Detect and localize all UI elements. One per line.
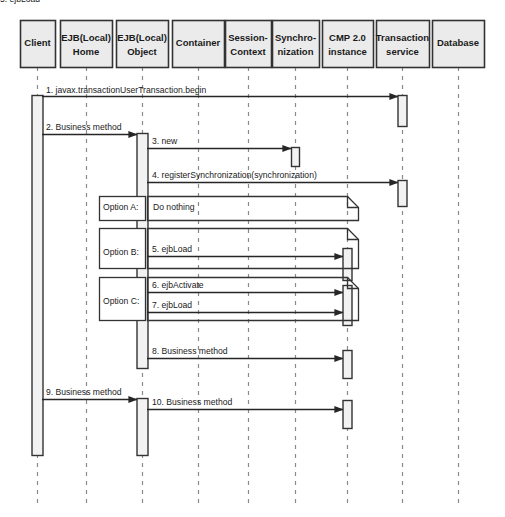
lifeline-head-label-line2: service [386, 46, 419, 57]
message-label: 10. Business method [152, 397, 232, 407]
activation-bar-sync[interactable] [292, 148, 300, 167]
message-label: 4. registerSynchronization(synchronizati… [152, 170, 317, 180]
activation-bar-ejb_object[interactable] [137, 399, 148, 456]
lifeline-head-label: Transaction [376, 32, 430, 43]
lifeline-head-label: Client [24, 37, 51, 48]
message-label: 5. ejbLoad [152, 244, 192, 254]
lifeline-head-box [226, 21, 272, 68]
activation-bar-cmp[interactable] [343, 351, 352, 379]
option-b-note-text: 5. ejbLoad [0, 0, 40, 4]
lifeline-head-box [61, 21, 113, 68]
message-m2[interactable]: 2. Business method [42, 122, 137, 135]
option-a[interactable]: Option A:Do nothing [100, 197, 359, 221]
lifeline-head-label: Database [437, 37, 479, 48]
message-label: 1. javax.transactionUserTransaction.begi… [46, 85, 206, 95]
activation-bar-client[interactable] [32, 96, 43, 456]
lifeline-head-label-line2: instance [328, 46, 367, 57]
lifeline-head-box [323, 21, 374, 68]
message-label: 6. ejbActivate [152, 280, 204, 290]
lifeline-head-label-line2: Context [230, 46, 266, 57]
message-label: 9. Business method [46, 387, 122, 397]
option-a-tag-label: Option A: [103, 202, 138, 212]
lifeline-head-database[interactable]: Database [433, 21, 485, 68]
message-m8[interactable]: 8. Business method [147, 346, 343, 359]
lifeline-head-label: Synchro- [275, 32, 316, 43]
lifeline-head-label: EJB(Local) [117, 32, 167, 43]
lifeline-head-box [377, 21, 430, 68]
activation-bar-cmp[interactable] [343, 286, 352, 326]
activation-bar-cmp[interactable] [343, 249, 352, 281]
option-c[interactable]: Option C: [100, 278, 359, 321]
lifeline-head-label-line2: Home [73, 46, 99, 57]
message-m9[interactable]: 9. Business method [42, 387, 137, 400]
message-m10[interactable]: 10. Business method [147, 397, 343, 410]
lifeline-head-label: Session- [228, 32, 268, 43]
sequence-diagram-canvas: Option A:Do nothingOption B:5. ejbLoadOp… [0, 0, 505, 517]
message-label: 3. new [152, 136, 178, 146]
lifeline-head-label: EJB(Local) [61, 32, 111, 43]
sequence-diagram-svg: Option A:Do nothingOption B:5. ejbLoadOp… [0, 0, 505, 517]
lifeline-head-box [117, 21, 169, 68]
lifeline-head-client[interactable]: Client [21, 21, 56, 68]
message-label: 8. Business method [152, 346, 228, 356]
message-m5[interactable]: 5. ejbLoad [147, 244, 343, 257]
activation-bar-tx_service[interactable] [398, 181, 407, 207]
message-m1[interactable]: 1. javax.transactionUserTransaction.begi… [42, 85, 398, 97]
message-label: 2. Business method [46, 122, 122, 132]
message-label: 7. ejbLoad [152, 300, 192, 310]
message-m4[interactable]: 4. registerSynchronization(synchronizati… [147, 170, 398, 183]
lifeline-heads-layer: ClientEJB(Local)HomeEJB(Local)ObjectCont… [21, 21, 485, 68]
lifeline-head-ejb_object[interactable]: EJB(Local)Object [117, 21, 169, 68]
lifeline-head-tx_service[interactable]: Transactionservice [376, 21, 430, 68]
lifeline-head-label-line2: Object [127, 46, 157, 57]
message-m6[interactable]: 6. ejbActivate [147, 280, 343, 293]
message-m3[interactable]: 3. new [147, 136, 291, 149]
option-c-tag-label: Option C: [103, 296, 139, 306]
lifeline-head-ejb_home[interactable]: EJB(Local)Home [61, 21, 113, 68]
lifeline-head-cmp[interactable]: CMP 2.0instance [323, 21, 374, 68]
message-m7[interactable]: 7. ejbLoad [147, 300, 343, 313]
activation-bar-cmp[interactable] [343, 401, 352, 429]
lifeline-head-sync[interactable]: Synchro-nization [273, 21, 320, 68]
lifeline-head-box [273, 21, 320, 68]
lifeline-head-label: CMP 2.0 [329, 32, 366, 43]
lifeline-head-container[interactable]: Container [173, 21, 225, 68]
option-a-note-text: Do nothing [153, 202, 195, 212]
lifeline-head-label-line2: nization [278, 46, 314, 57]
activation-bar-tx_service[interactable] [398, 96, 407, 127]
lifeline-head-label: Container [176, 37, 221, 48]
lifeline-head-session_ctx[interactable]: Session-Context [226, 21, 272, 68]
option-b-tag-label: Option B: [103, 247, 139, 257]
